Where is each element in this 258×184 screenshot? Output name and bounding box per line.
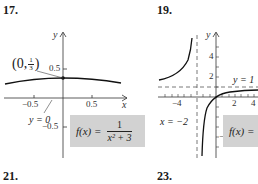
formula-denominator: x² + 3 (107, 132, 131, 144)
y-axis-label: y (53, 29, 57, 40)
y-axis-label: y (206, 29, 210, 40)
formula-lhs: f(x) = (76, 125, 101, 137)
formula-box-19: f(x) = (223, 115, 258, 147)
x-tick-label: 4 (251, 98, 256, 108)
formula-fraction: 1 x² + 3 (107, 119, 131, 144)
point-fraction: 1 3 (28, 57, 34, 72)
formula-lhs: f(x) = (229, 125, 254, 137)
y-tick-label: 2 (209, 71, 214, 81)
point-label: (0, 1 3 ) (12, 56, 39, 72)
fraction-denominator: 3 (29, 65, 33, 72)
x-tick-label: 2 (232, 98, 237, 108)
horizontal-asymptote-label: y = 1 (233, 74, 254, 85)
formula-box-17: f(x) = 1 x² + 3 (70, 115, 145, 147)
graph-17-plot (0, 0, 258, 184)
point-close: ) (35, 56, 40, 72)
x-axis-label: x (122, 99, 126, 110)
x-tick-label: −4 (172, 98, 182, 108)
y-tick-label: 0.5 (49, 63, 60, 73)
x-tick-label: 0.5 (86, 99, 97, 109)
vertical-asymptote-label: x = −2 (160, 116, 188, 127)
formula-numerator: 1 (107, 119, 131, 132)
x-tick-label: −0.5 (22, 99, 38, 109)
y-tick-label: 4 (209, 51, 214, 61)
point-open: (0, (12, 56, 27, 72)
asymptote-label: y = 0 (29, 114, 50, 125)
